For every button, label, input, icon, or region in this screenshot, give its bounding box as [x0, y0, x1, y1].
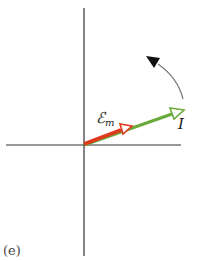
- rotation-arrow-icon: [146, 56, 183, 99]
- panel-label: (e): [3, 243, 21, 258]
- emf-label: ℰm: [96, 109, 114, 128]
- current-label: I: [177, 115, 185, 133]
- phasor-diagram: ℰm I (e): [0, 0, 213, 261]
